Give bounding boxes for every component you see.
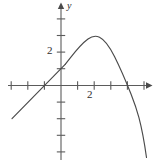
x-axis-group xyxy=(8,81,153,89)
x-axis-tick-label-2: 2 xyxy=(87,89,93,100)
graph-figure: 2 2 y xyxy=(0,0,154,160)
y-axis-group xyxy=(57,3,65,161)
y-axis-tick-label-2: 2 xyxy=(47,45,53,56)
coordinate-plot xyxy=(0,0,154,160)
curve-branch-path xyxy=(65,36,146,157)
x-axis-arrow-icon xyxy=(146,82,153,88)
y-axis-name-label: y xyxy=(67,1,71,11)
y-axis-arrow-icon xyxy=(58,3,64,10)
linear-branch-path xyxy=(12,64,65,118)
